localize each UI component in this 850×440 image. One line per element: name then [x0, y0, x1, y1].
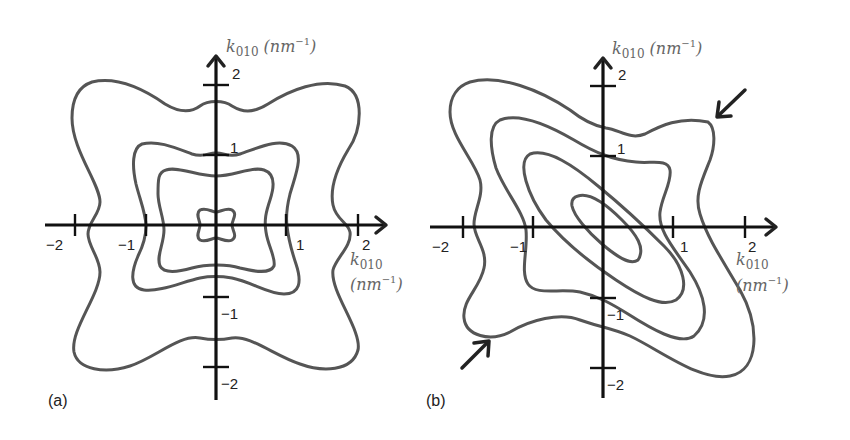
panel-a-ytick-2: 2	[232, 65, 240, 82]
annotation-arrow-upper-right-icon	[717, 90, 745, 117]
panel-b-ytick-neg2: −2	[607, 376, 624, 393]
panel-b-xtick-2: 2	[748, 238, 756, 255]
panel-b-xtick-neg1: −1	[510, 238, 527, 255]
panel-b-y-axis-label: k010(nm−1)	[612, 38, 702, 61]
panel-a-xtick-neg1: −1	[118, 236, 135, 253]
panel-b-ytick-neg1: −1	[607, 306, 624, 323]
panel-a-y-axis-label: k010(nm−1)	[226, 36, 316, 59]
panel-a-xtick-1: 1	[296, 236, 304, 253]
panel-a-ytick-1: 1	[230, 139, 238, 156]
panel-a-xtick-neg2: −2	[46, 236, 63, 253]
panel-a: −2 −1 1 2 2 1 −1 −2 k010(nm−1) k010 (nm−…	[45, 36, 403, 409]
panel-a-xtick-2: 2	[362, 236, 370, 253]
panel-b-x-axis-label-line2: (nm−1)	[736, 275, 789, 295]
panel-a-x-axis-label-line1: k010	[350, 250, 383, 272]
annotation-arrow-lower-left-icon	[462, 341, 489, 368]
panel-b-ytick-2: 2	[618, 66, 626, 83]
figure-canvas: −2 −1 1 2 2 1 −1 −2 k010(nm−1) k010 (nm−…	[0, 0, 850, 440]
panel-a-ytick-neg1: −1	[221, 305, 238, 322]
panel-a-x-axis-label-line2: (nm−1)	[350, 274, 403, 294]
panel-b-xtick-neg2: −2	[432, 238, 449, 255]
panel-a-ytick-neg2: −2	[221, 375, 238, 392]
panel-b-ytick-1: 1	[617, 140, 625, 157]
panel-b-xtick-1: 1	[680, 238, 688, 255]
panel-b-label: (b)	[426, 392, 446, 409]
panel-b: −2 −1 1 2 2 1 −1 −2 k010(nm−1) k010 (nm−…	[426, 38, 789, 409]
panel-a-label: (a)	[48, 392, 68, 409]
